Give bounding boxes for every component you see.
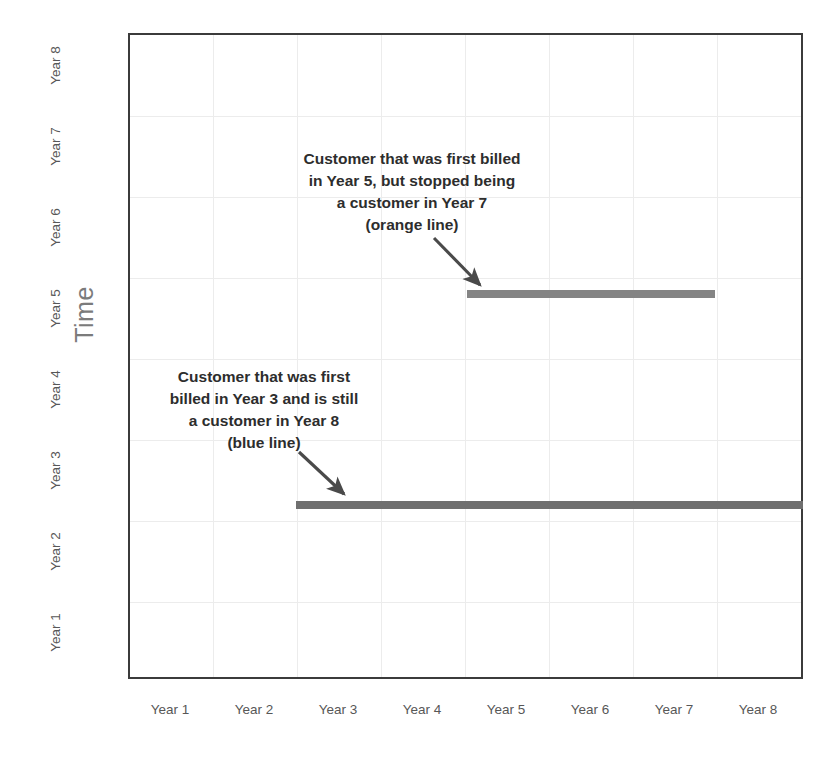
gridline-horizontal xyxy=(130,602,801,603)
x-tick-label-year-4: Year 4 xyxy=(377,702,467,717)
gridline-vertical xyxy=(297,35,298,677)
x-tick-label-year-2: Year 2 xyxy=(209,702,299,717)
plot-area xyxy=(128,33,803,679)
y-tick-label-year-8: Year 8 xyxy=(48,11,63,121)
x-tick-label-year-7: Year 7 xyxy=(629,702,719,717)
gridline-vertical xyxy=(633,35,634,677)
chart-figure: Time Year 1 Year 2 Year 3 Year 4 Year 5 … xyxy=(0,0,826,763)
series-bar-orange xyxy=(467,290,715,298)
gridline-vertical xyxy=(213,35,214,677)
x-tick-label-year-3: Year 3 xyxy=(293,702,383,717)
gridline-horizontal xyxy=(130,521,801,522)
y-axis-title: Time xyxy=(70,245,99,385)
gridline-horizontal xyxy=(130,359,801,360)
gridline-vertical xyxy=(381,35,382,677)
gridline-horizontal xyxy=(130,116,801,117)
x-tick-label-year-8: Year 8 xyxy=(713,702,803,717)
series-bar-blue xyxy=(296,501,803,509)
annotation-blue-line: Customer that was first billed in Year 3… xyxy=(148,366,380,454)
annotation-orange-line: Customer that was first billed in Year 5… xyxy=(287,148,537,236)
x-tick-label-year-6: Year 6 xyxy=(545,702,635,717)
x-tick-label-year-1: Year 1 xyxy=(125,702,215,717)
gridline-vertical xyxy=(465,35,466,677)
gridline-vertical xyxy=(717,35,718,677)
gridline-vertical xyxy=(549,35,550,677)
gridline-horizontal xyxy=(130,278,801,279)
x-tick-label-year-5: Year 5 xyxy=(461,702,551,717)
